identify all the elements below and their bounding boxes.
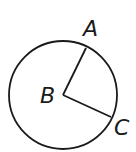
- radius-bc: [63, 95, 111, 117]
- circle-diagram: A B C: [0, 0, 136, 152]
- radius-ba: [63, 48, 86, 95]
- label-b: B: [40, 83, 55, 108]
- label-a: A: [81, 16, 98, 41]
- label-c: C: [114, 115, 130, 140]
